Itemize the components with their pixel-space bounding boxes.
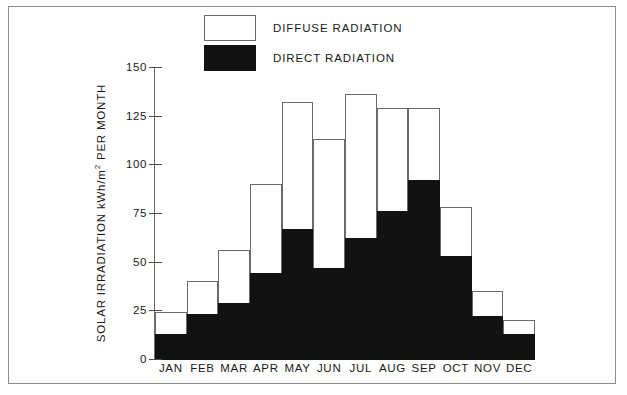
month-label-jul: JUL <box>350 362 373 374</box>
chart-frame: DIFFUSE RADIATION DIRECT RADIATION 02550… <box>8 6 616 384</box>
y-tick-label-50: 50 <box>105 256 147 268</box>
bar-jan <box>155 312 187 359</box>
bar-jun <box>313 139 345 359</box>
bar-nov <box>472 291 504 359</box>
month-label-jan: JAN <box>159 362 183 374</box>
bar-segment-direct-nov <box>472 316 504 359</box>
chart-legend: DIFFUSE RADIATION DIRECT RADIATION <box>204 13 464 73</box>
bar-segment-direct-mar <box>218 303 250 359</box>
bar-sep <box>408 108 440 359</box>
bar-segment-direct-dec <box>503 334 535 359</box>
bar-segment-direct-jul <box>345 238 377 359</box>
bar-segment-direct-jan <box>155 334 187 359</box>
month-label-oct: OCT <box>443 362 469 374</box>
month-label-may: MAY <box>284 362 310 374</box>
legend-item-diffuse: DIFFUSE RADIATION <box>204 13 464 43</box>
bar-segment-direct-oct <box>440 256 472 359</box>
y-tick-label-0: 0 <box>105 353 147 365</box>
bar-segment-direct-may <box>282 229 314 359</box>
legend-swatch-diffuse <box>204 15 256 41</box>
bar-aug <box>377 108 409 359</box>
bar-oct <box>440 207 472 359</box>
month-label-apr: APR <box>253 362 279 374</box>
month-label-nov: NOV <box>474 362 501 374</box>
x-axis-category-labels: JANFEBMARAPRMAYJUNJULAUGSEPOCTNOVDEC <box>155 362 535 382</box>
legend-label-direct: DIRECT RADIATION <box>273 52 395 64</box>
month-label-jun: JUN <box>317 362 341 374</box>
bar-segment-direct-jun <box>313 268 345 359</box>
month-label-mar: MAR <box>220 362 248 374</box>
bar-may <box>282 102 314 359</box>
y-tick-label-150: 150 <box>105 61 147 73</box>
bar-dec <box>503 320 535 359</box>
bar-apr <box>250 184 282 359</box>
month-label-feb: FEB <box>190 362 214 374</box>
x-axis-line <box>154 359 535 360</box>
bar-series-group <box>155 67 535 359</box>
bar-feb <box>187 281 219 359</box>
y-tick-label-100: 100 <box>105 158 147 170</box>
bar-jul <box>345 94 377 359</box>
bar-mar <box>218 250 250 359</box>
bar-segment-direct-feb <box>187 314 219 359</box>
y-tick-label-125: 125 <box>105 110 147 122</box>
plot-area: SOLAR IRRADIATION kWh/m2 PER MONTH <box>155 67 535 359</box>
y-tick-label-75: 75 <box>105 207 147 219</box>
month-label-aug: AUG <box>379 362 406 374</box>
y-axis-title: SOLAR IRRADIATION kWh/m2 PER MONTH <box>93 63 109 363</box>
bar-segment-direct-apr <box>250 273 282 359</box>
month-label-sep: SEP <box>412 362 437 374</box>
y-tick-0 <box>149 359 162 360</box>
bar-segment-direct-sep <box>408 180 440 359</box>
y-axis-tick-labels: 0255075100125150 <box>105 67 147 359</box>
legend-label-diffuse: DIFFUSE RADIATION <box>273 22 402 34</box>
month-label-dec: DEC <box>506 362 532 374</box>
y-tick-label-25: 25 <box>105 304 147 316</box>
bar-segment-direct-aug <box>377 211 409 359</box>
